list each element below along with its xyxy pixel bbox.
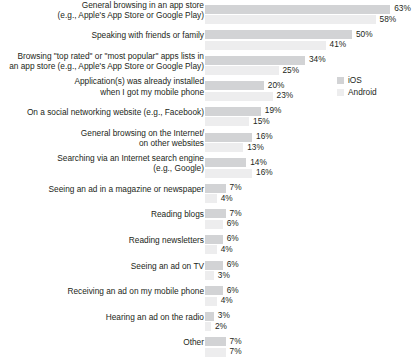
bar-value-label: 23%	[277, 91, 294, 101]
legend-item-ios[interactable]: iOS	[337, 74, 377, 86]
bar-value-label: 34%	[309, 55, 326, 65]
bar-ios[interactable]	[205, 30, 352, 39]
bar-value-label: 25%	[283, 66, 300, 76]
bar-ios[interactable]	[205, 209, 226, 218]
bar-value-label: 6%	[227, 260, 239, 270]
bar-value-label: 19%	[265, 106, 282, 116]
bar-value-label: 41%	[330, 40, 347, 50]
bar-ios[interactable]	[205, 5, 390, 14]
bar-ios[interactable]	[205, 107, 261, 116]
legend-swatch-android	[337, 89, 344, 96]
bar-value-label: 7%	[230, 209, 242, 219]
category-label: Reading newsletters	[4, 235, 204, 245]
bar-value-label: 6%	[227, 219, 239, 229]
bar-value-label: 15%	[253, 117, 270, 127]
category-label: Reading blogs	[4, 209, 204, 219]
bar-value-label: 14%	[250, 158, 267, 168]
bar-ios[interactable]	[205, 286, 223, 295]
bar-ios[interactable]	[205, 56, 305, 65]
bar-ios[interactable]	[205, 337, 226, 346]
bar-value-label: 58%	[380, 15, 397, 25]
bar-ios[interactable]	[205, 312, 214, 321]
bar-ios[interactable]	[205, 81, 264, 90]
category-label: Seeing an ad in a magazine or newspaper	[4, 184, 204, 194]
category-label: General browsing on the Internet/ on oth…	[4, 128, 204, 148]
bar-value-label: 6%	[227, 234, 239, 244]
legend-item-android[interactable]: Android	[337, 86, 377, 98]
legend-label-ios: iOS	[348, 74, 362, 86]
bar-android[interactable]	[205, 66, 279, 75]
bar-android[interactable]	[205, 348, 226, 357]
bar-value-label: 3%	[218, 311, 230, 321]
bar-value-label: 7%	[230, 347, 242, 357]
bar-value-label: 3%	[218, 271, 230, 281]
bar-value-label: 20%	[268, 81, 285, 91]
category-label: Application(s) was already installed whe…	[4, 76, 204, 96]
bar-ios[interactable]	[205, 133, 252, 142]
bar-android[interactable]	[205, 92, 273, 101]
bar-value-label: 6%	[227, 286, 239, 296]
category-label: On a social networking website (e.g., Fa…	[4, 107, 204, 117]
bar-android[interactable]	[205, 271, 214, 280]
legend-label-android: Android	[348, 86, 377, 98]
bar-value-label: 63%	[394, 4, 411, 14]
bar-value-label: 50%	[356, 30, 373, 40]
bar-value-label: 7%	[230, 183, 242, 193]
bar-value-label: 2%	[215, 322, 227, 332]
bar-value-label: 13%	[247, 143, 264, 153]
category-label: Hearing an ad on the radio	[4, 312, 204, 322]
bar-android[interactable]	[205, 169, 252, 178]
bar-android[interactable]	[205, 220, 223, 229]
bar-value-label: 4%	[221, 245, 233, 255]
bar-android[interactable]	[205, 322, 211, 331]
bar-android[interactable]	[205, 194, 217, 203]
category-label: Receiving an ad on my mobile phone	[4, 286, 204, 296]
category-label: Other	[4, 337, 204, 347]
bar-android[interactable]	[205, 297, 217, 306]
bar-ios[interactable]	[205, 235, 223, 244]
category-label: Browsing "top rated" or "most popular" a…	[4, 51, 204, 71]
bar-android[interactable]	[205, 41, 326, 50]
bar-android[interactable]	[205, 117, 249, 126]
legend-swatch-ios	[337, 77, 344, 84]
bar-ios[interactable]	[205, 158, 246, 167]
bar-value-label: 4%	[221, 194, 233, 204]
category-label: General browsing in an app store (e.g., …	[4, 0, 204, 20]
bar-android[interactable]	[205, 143, 243, 152]
category-label: Searching via an Internet search engine …	[4, 153, 204, 173]
chart-legend: iOS Android	[337, 74, 377, 99]
category-label: Speaking with friends or family	[4, 30, 204, 40]
category-label: Seeing an ad on TV	[4, 261, 204, 271]
bar-android[interactable]	[205, 15, 376, 24]
bar-value-label: 4%	[221, 296, 233, 306]
bar-ios[interactable]	[205, 261, 223, 270]
bar-value-label: 7%	[230, 337, 242, 347]
bar-value-label: 16%	[256, 168, 273, 178]
bar-value-label: 16%	[256, 132, 273, 142]
bar-android[interactable]	[205, 245, 217, 254]
bar-ios[interactable]	[205, 184, 226, 193]
